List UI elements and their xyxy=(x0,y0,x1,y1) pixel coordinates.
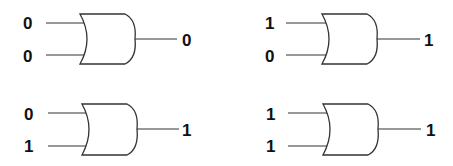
gate-2-output-label: 1 xyxy=(424,31,433,50)
gate-2-input-b-label: 0 xyxy=(265,47,274,66)
gate-1-input-a-label: 0 xyxy=(23,14,32,33)
gate-2-or-symbol xyxy=(322,14,377,64)
gate-3-input-a-label: 0 xyxy=(24,105,33,124)
or-gate-1: 0 0 0 xyxy=(23,14,191,66)
gate-3-output-label: 1 xyxy=(182,121,191,140)
gate-1-or-symbol xyxy=(80,14,135,64)
or-gate-4: 1 1 1 xyxy=(266,104,435,156)
gate-3-input-b-label: 1 xyxy=(24,137,33,156)
or-gate-3: 0 1 1 xyxy=(24,104,191,156)
gate-4-or-symbol xyxy=(323,104,378,155)
gate-3-or-symbol xyxy=(82,104,137,155)
or-gate-2: 1 0 1 xyxy=(265,14,433,66)
or-gate-diagram: 0 0 0 1 0 1 0 1 1 1 1 1 xyxy=(0,0,453,166)
gate-4-output-label: 1 xyxy=(426,121,435,140)
gate-1-output-label: 0 xyxy=(182,31,191,50)
gate-1-input-b-label: 0 xyxy=(23,47,32,66)
gate-4-input-a-label: 1 xyxy=(266,105,275,124)
gate-4-input-b-label: 1 xyxy=(266,137,275,156)
gate-2-input-a-label: 1 xyxy=(265,14,274,33)
